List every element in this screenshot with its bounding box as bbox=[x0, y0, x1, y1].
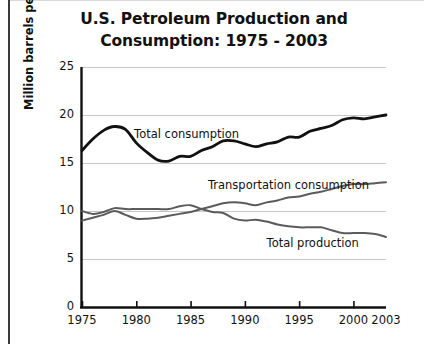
series-label: Total production bbox=[267, 236, 359, 250]
series-label: Transportation consumption bbox=[208, 178, 369, 192]
chart-svg bbox=[0, 0, 424, 344]
x-axis-ticks bbox=[83, 301, 354, 307]
series-label: Total consumption bbox=[134, 127, 239, 141]
y-tick-label: 15 bbox=[40, 155, 74, 169]
y-tick-label: 20 bbox=[40, 107, 74, 121]
series-line bbox=[82, 205, 386, 237]
x-tick-label: 2003 bbox=[363, 313, 409, 327]
y-tick-label: 5 bbox=[40, 251, 74, 265]
y-tick-label: 0 bbox=[40, 299, 74, 313]
x-tick-label: 1985 bbox=[168, 313, 214, 327]
plot-area: Million barrels per day 0510152025 19751… bbox=[0, 0, 424, 344]
y-axis-title-text: Million barrels per day bbox=[22, 0, 36, 110]
x-tick-label: 1990 bbox=[222, 313, 268, 327]
y-tick-label: 10 bbox=[40, 203, 74, 217]
x-tick-label: 1980 bbox=[113, 313, 159, 327]
gridlines bbox=[82, 68, 386, 260]
y-axis-title: Million barrels per day bbox=[22, 0, 36, 110]
x-tick-label: 1995 bbox=[276, 313, 322, 327]
chart-canvas: U.S. Petroleum Production and Consumptio… bbox=[0, 0, 424, 344]
x-tick-label: 1975 bbox=[59, 313, 105, 327]
y-tick-label: 25 bbox=[40, 59, 74, 73]
